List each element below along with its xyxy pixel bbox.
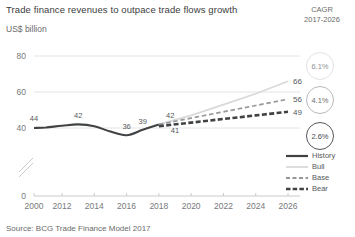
legend-swatch-bull bbox=[286, 163, 308, 171]
cagr-badge-base: 4.1% bbox=[306, 86, 334, 114]
svg-text:40: 40 bbox=[17, 123, 27, 133]
data-label: 44 bbox=[30, 114, 38, 123]
legend: History Bull Base Bear bbox=[286, 150, 352, 194]
svg-text:60: 60 bbox=[17, 87, 27, 97]
end-label-bull: 66 bbox=[293, 77, 302, 86]
svg-text:2014: 2014 bbox=[85, 201, 104, 211]
series-line-history bbox=[34, 124, 159, 135]
cagr-badge-bear: 2.6% bbox=[306, 122, 334, 150]
end-label-base: 56 bbox=[293, 95, 302, 104]
svg-text:80: 80 bbox=[17, 51, 27, 61]
series-end-labels: 665649 bbox=[293, 77, 302, 117]
svg-text:2026: 2026 bbox=[279, 201, 298, 211]
legend-swatch-history bbox=[286, 152, 308, 160]
y-axis-break-icon bbox=[19, 158, 33, 177]
cagr-badge-bull: 6.1% bbox=[306, 52, 334, 80]
series-line-base bbox=[159, 99, 288, 124]
data-label: 36 bbox=[122, 122, 130, 131]
x-tick-labels: 200020122014201620182020202220242026 bbox=[25, 201, 298, 211]
legend-label-bull: Bull bbox=[312, 161, 325, 172]
legend-swatch-bear bbox=[286, 185, 308, 193]
legend-swatch-base bbox=[286, 174, 308, 182]
svg-text:0: 0 bbox=[21, 191, 26, 201]
svg-text:2016: 2016 bbox=[117, 201, 136, 211]
svg-text:2022: 2022 bbox=[214, 201, 233, 211]
legend-item-bear: Bear bbox=[286, 183, 352, 194]
svg-text:2018: 2018 bbox=[149, 201, 168, 211]
svg-text:2020: 2020 bbox=[182, 201, 201, 211]
legend-item-bull: Bull bbox=[286, 161, 352, 172]
data-label: 41 bbox=[171, 126, 179, 135]
data-label: 39 bbox=[139, 117, 147, 126]
x-axis bbox=[34, 193, 300, 196]
plot-area: 0406080 20002012201420162018202020222024… bbox=[0, 0, 355, 237]
data-label: 42 bbox=[166, 111, 174, 120]
end-label-bear: 49 bbox=[293, 108, 302, 117]
data-point-labels: 444236394241 bbox=[30, 111, 179, 135]
data-label: 42 bbox=[74, 111, 82, 120]
svg-text:2024: 2024 bbox=[246, 201, 265, 211]
svg-text:2012: 2012 bbox=[53, 201, 72, 211]
legend-label-base: Base bbox=[312, 172, 329, 183]
source-note: Source: BCG Trade Finance Model 2017 bbox=[6, 224, 151, 233]
series-lines bbox=[34, 81, 288, 135]
legend-item-base: Base bbox=[286, 172, 352, 183]
y-tick-labels: 0406080 bbox=[17, 51, 27, 201]
legend-label-history: History bbox=[312, 150, 335, 161]
legend-item-history: History bbox=[286, 150, 352, 161]
legend-label-bear: Bear bbox=[312, 183, 328, 194]
chart-container: Trade finance revenues to outpace trade … bbox=[0, 0, 355, 237]
svg-text:2000: 2000 bbox=[25, 201, 44, 211]
